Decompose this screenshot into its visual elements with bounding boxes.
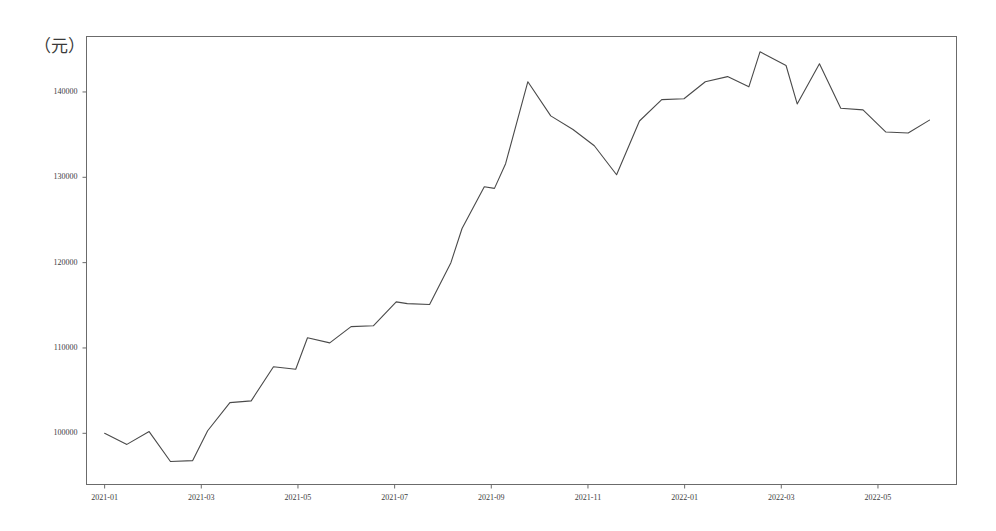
x-tick-label: 2021-07: [360, 493, 430, 502]
x-tick-label: 2021-09: [456, 493, 526, 502]
x-tick-label: 2022-01: [650, 493, 720, 502]
y-tick-label: 110000: [27, 343, 78, 352]
y-tick-label: 100000: [27, 428, 78, 437]
y-tick-label: 120000: [27, 258, 78, 267]
x-tick-label: 2021-03: [166, 493, 236, 502]
x-tick-label: 2022-05: [843, 493, 913, 502]
x-tick-label: 2022-03: [746, 493, 816, 502]
y-tick-label: 140000: [27, 87, 78, 96]
y-tick-label: 130000: [27, 172, 78, 181]
plot-area-svg: [0, 0, 996, 531]
x-tick-label: 2021-01: [70, 493, 140, 502]
x-tick-label: 2021-11: [553, 493, 623, 502]
x-tick-label: 2021-05: [263, 493, 333, 502]
x-axis-tick-marks: [105, 485, 878, 489]
y-axis-tick-marks: [83, 92, 87, 433]
line-chart: （元） 100000110000120000130000140000 2021-…: [0, 0, 996, 531]
